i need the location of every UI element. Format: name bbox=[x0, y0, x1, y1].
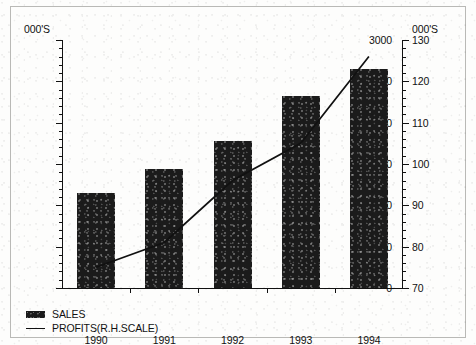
legend-item-sales: SALES bbox=[26, 307, 158, 321]
right-tick-label-130: 130 bbox=[412, 35, 452, 46]
right-tick-104 bbox=[403, 147, 406, 148]
right-tick-112 bbox=[403, 114, 406, 115]
x-tick-2 bbox=[198, 289, 199, 293]
plot-area: 050010001500200025003000 708090100110120… bbox=[62, 40, 403, 288]
right-tick-84 bbox=[403, 230, 406, 231]
legend-item-profits: PROFITS(R.H.SCALE) bbox=[26, 321, 158, 335]
right-tick-label-110: 110 bbox=[412, 118, 452, 129]
right-tick-92 bbox=[403, 197, 406, 198]
right-tick-128 bbox=[403, 48, 406, 49]
right-tick-86 bbox=[403, 222, 406, 223]
right-tick-120 bbox=[403, 81, 409, 82]
line-series-profits bbox=[62, 40, 403, 289]
legend-label-sales: SALES bbox=[52, 309, 85, 320]
right-tick-90 bbox=[403, 205, 409, 206]
line-swatch-icon bbox=[26, 328, 45, 329]
right-tick-70 bbox=[403, 288, 409, 289]
right-tick-88 bbox=[403, 214, 406, 215]
right-tick-100 bbox=[403, 164, 409, 165]
right-tick-94 bbox=[403, 189, 406, 190]
x-tick-3 bbox=[267, 289, 268, 293]
right-tick-130 bbox=[403, 40, 409, 41]
chart-legend: SALES PROFITS(R.H.SCALE) bbox=[26, 307, 158, 335]
category-label-1991: 1991 bbox=[130, 334, 198, 345]
right-tick-116 bbox=[403, 98, 406, 99]
right-tick-74 bbox=[403, 271, 406, 272]
legend-label-profits: PROFITS(R.H.SCALE) bbox=[52, 323, 158, 334]
category-label-1994: 1994 bbox=[335, 334, 403, 345]
right-tick-114 bbox=[403, 106, 406, 107]
bar-swatch-icon bbox=[26, 311, 45, 318]
right-tick-110 bbox=[403, 123, 409, 124]
profits-polyline bbox=[96, 57, 369, 268]
x-tick-4 bbox=[335, 289, 336, 293]
legend-swatch-wrapper bbox=[26, 311, 52, 318]
right-tick-96 bbox=[403, 181, 406, 182]
category-label-1993: 1993 bbox=[267, 334, 335, 345]
right-tick-124 bbox=[403, 65, 406, 66]
right-tick-76 bbox=[403, 263, 406, 264]
category-label-1992: 1992 bbox=[198, 334, 266, 345]
category-label-1990: 1990 bbox=[62, 334, 130, 345]
right-tick-98 bbox=[403, 172, 406, 173]
right-tick-label-80: 80 bbox=[412, 242, 452, 253]
right-tick-106 bbox=[403, 139, 406, 140]
x-tick-1 bbox=[130, 289, 131, 293]
right-tick-label-100: 100 bbox=[412, 159, 452, 170]
right-tick-126 bbox=[403, 57, 406, 58]
right-tick-label-70: 70 bbox=[412, 283, 452, 294]
right-tick-122 bbox=[403, 73, 406, 74]
right-tick-118 bbox=[403, 90, 406, 91]
right-tick-label-120: 120 bbox=[412, 76, 452, 87]
right-tick-102 bbox=[403, 156, 406, 157]
right-tick-80 bbox=[403, 247, 409, 248]
chart-screenshot: 000'S 000'S 050010001500200025003000 708… bbox=[0, 0, 476, 345]
right-tick-108 bbox=[403, 131, 406, 132]
right-tick-78 bbox=[403, 255, 406, 256]
right-tick-82 bbox=[403, 238, 406, 239]
right-tick-72 bbox=[403, 280, 406, 281]
legend-swatch-wrapper bbox=[26, 328, 52, 329]
right-tick-label-90: 90 bbox=[412, 200, 452, 211]
